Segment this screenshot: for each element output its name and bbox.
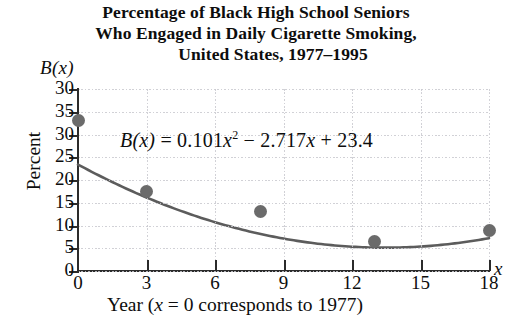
x-caption-variable: x [154, 294, 163, 315]
x-tick-label: 9 [279, 273, 289, 292]
chart-title-line-2: Who Engaged in Daily Cigarette Smoking, [0, 23, 512, 44]
x-tick-mark [215, 260, 217, 271]
function-axis-label: B(x) [40, 57, 74, 79]
equation-lhs: B(x) [120, 129, 155, 151]
plot-area: 05101520253035300369121518 [78, 89, 489, 271]
gridline-vertical [284, 89, 285, 271]
gridline-vertical [215, 89, 216, 271]
y-tick-label: 30 [55, 78, 74, 97]
x-tick-mark [421, 260, 423, 271]
gridline-vertical [352, 89, 353, 271]
x-tick-mark [147, 260, 149, 271]
data-point [72, 114, 85, 127]
y-tick-label: 35 [55, 101, 74, 120]
equation-coefficient-a: 0.101 [177, 129, 223, 151]
x-tick-label: 15 [411, 273, 430, 292]
x-tick-label: 3 [142, 273, 152, 292]
x-caption-suffix: = 0 corresponds to 1977) [163, 294, 363, 315]
equation-equals: = [160, 129, 171, 151]
chart-title-line-1: Percentage of Black High School Seniors [0, 2, 512, 23]
data-point [483, 224, 496, 237]
gridline-vertical [147, 89, 148, 271]
equation-exponent: 2 [232, 128, 238, 142]
y-axis-title: Percent [23, 101, 45, 221]
x-tick-mark [352, 260, 354, 271]
y-tick-label: 10 [55, 215, 74, 234]
x-axis-variable-label: x [494, 258, 502, 280]
x-tick-mark [284, 260, 286, 271]
gridline-vertical [421, 89, 422, 271]
x-caption-prefix: Year ( [107, 294, 154, 315]
equation-constant: 23.4 [337, 129, 373, 151]
y-tick-label: 15 [55, 192, 74, 211]
x-tick-mark [489, 260, 491, 271]
x-tick-label: 6 [210, 273, 220, 292]
gridline-vertical [489, 89, 490, 271]
y-tick-label: 20 [55, 169, 74, 188]
y-tick-label: 30 [55, 124, 74, 143]
equation-coefficient-b: 2.717 [260, 129, 306, 151]
equation-var-b: x [306, 129, 315, 151]
chart-title: Percentage of Black High School Seniors … [0, 2, 512, 65]
x-tick-label: 12 [343, 273, 362, 292]
equation-var-a: x [223, 129, 232, 151]
equation-annotation: B(x) = 0.101x2 − 2.717x + 23.4 [120, 128, 373, 152]
y-tick-label: 5 [65, 237, 75, 256]
x-axis-caption: Year (x = 0 corresponds to 1977) [0, 294, 470, 316]
data-point [140, 185, 153, 198]
x-tick-label: 0 [73, 273, 83, 292]
equation-plus: + [321, 129, 332, 151]
equation-minus: − [244, 129, 255, 151]
chart-figure: Percentage of Black High School Seniors … [0, 0, 512, 325]
y-tick-label: 25 [55, 146, 74, 165]
chart-title-line-3: United States, 1977–1995 [0, 44, 512, 65]
